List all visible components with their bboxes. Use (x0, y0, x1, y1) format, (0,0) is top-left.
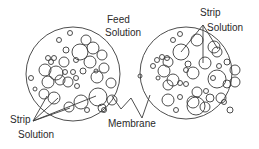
feed-label-line2: Solution (105, 28, 141, 38)
strip-droplet (49, 60, 54, 65)
strip-droplet (80, 68, 86, 74)
strip-droplet (185, 61, 191, 67)
strip-droplet (158, 65, 170, 77)
right-strip-droplets (138, 32, 240, 116)
strip-droplet (74, 76, 79, 81)
strip-droplet (211, 76, 216, 81)
strip-droplet (187, 97, 205, 115)
strip-droplet (227, 107, 233, 113)
membrane-label: Membrane (108, 119, 156, 129)
strip-droplet (57, 38, 62, 43)
strip-droplet (68, 31, 73, 36)
strip-droplet (106, 78, 116, 88)
strip-top-label-line1: Strip (200, 8, 221, 18)
strip-droplet (99, 63, 109, 73)
strip-droplet (29, 76, 34, 81)
strip-droplet (42, 76, 54, 88)
strip-droplet (162, 94, 174, 106)
strip-droplet (156, 76, 160, 80)
strip-droplet (85, 108, 90, 113)
strip-bottom-label-line2: Solution (18, 130, 54, 140)
strip-droplet (39, 89, 49, 99)
strip-droplet (59, 57, 69, 67)
strip-droplet (75, 84, 80, 89)
strip-droplet (192, 87, 202, 97)
strip-droplet (33, 87, 37, 91)
strip-droplet (97, 50, 107, 60)
membrane-diagram: Feed Solution Strip Solution Strip Solut… (0, 0, 259, 149)
strip-top-label-line2: Solution (207, 23, 243, 33)
strip-droplet (178, 32, 183, 37)
strip-droplet (171, 38, 176, 43)
strip-droplet (87, 42, 99, 54)
strip-bottom-label-line1: Strip (10, 115, 31, 125)
feed-label-line1: Feed (107, 15, 130, 25)
strip-droplet (184, 82, 189, 87)
strip-droplet (187, 67, 199, 79)
strip-droplet (71, 70, 76, 75)
strip-droplet (191, 34, 203, 46)
strip-droplet (89, 88, 107, 106)
strip-droplet (206, 94, 214, 102)
membrane-line (112, 95, 150, 118)
strip-droplet (178, 95, 183, 100)
strip-droplet (84, 56, 96, 68)
right-emulsion-globule (140, 27, 232, 119)
strip-droplet (174, 108, 179, 113)
strip-droplet (204, 89, 209, 94)
strip-droplet (155, 58, 160, 63)
strip-droplet (151, 64, 156, 69)
left-strip-droplets (29, 31, 118, 113)
strip-droplet (217, 64, 222, 69)
strip-pointer-lines-bottom (33, 96, 96, 121)
strip-droplet (199, 57, 211, 69)
strip-droplet (163, 57, 173, 67)
strip-droplet (63, 47, 69, 53)
strip-droplet (224, 59, 230, 65)
strip-droplet (163, 80, 173, 90)
